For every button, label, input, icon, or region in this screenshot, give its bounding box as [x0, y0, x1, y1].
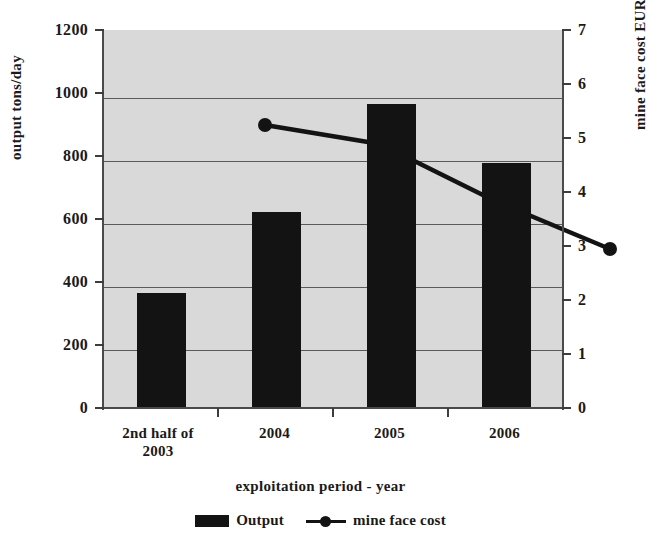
x-axis-category-label-1: 2004: [217, 424, 332, 442]
line-marker-1: [373, 137, 387, 151]
y-axis-right-label-2: 2: [578, 292, 608, 308]
y-axis-right-title: mine face cost EUR/ton: [632, 0, 649, 130]
x-axis-category-label-0-line-1: 2nd half of: [122, 425, 193, 441]
y-axis-left-tick-800: [95, 155, 104, 157]
y-axis-left-tick-200: [95, 344, 104, 346]
y-axis-right-label-7: 7: [578, 22, 608, 38]
y-axis-left-tick-400: [95, 281, 104, 283]
bar-2nd-half-of-2003: [137, 293, 186, 408]
x-axis-category-label-0: 2nd half of 2003: [100, 424, 216, 460]
y-axis-right-tick-3: [562, 245, 571, 247]
y-axis-right-label-5: 5: [578, 130, 608, 146]
plot-area: [103, 30, 563, 408]
x-axis-category-label-0-line-2: 2003: [143, 443, 174, 459]
x-axis-category-label-3: 2006: [447, 424, 562, 442]
x-axis-tick-2: [447, 408, 449, 417]
y-axis-right-label-1: 1: [578, 346, 608, 362]
y-axis-right-tick-1: [562, 353, 571, 355]
x-axis-category-label-2: 2005: [332, 424, 447, 442]
y-axis-left-label-200: 200: [28, 337, 88, 353]
x-axis-tick-0: [217, 408, 219, 417]
y-axis-left-label-400: 400: [28, 274, 88, 290]
y-axis-left-label-1200: 1200: [28, 22, 88, 38]
y-axis-right-label-4: 4: [578, 184, 608, 200]
y-axis-left-tick-600: [95, 218, 104, 220]
legend-item-output: Output: [195, 512, 284, 529]
y-axis-right-tick-0: [562, 407, 571, 409]
y-axis-right-label-3: 3: [578, 238, 608, 254]
y-axis-right-tick-4: [562, 191, 571, 193]
y-axis-left-tick-1000: [95, 92, 104, 94]
y-axis-left-tick-1200: [95, 29, 104, 31]
chart-legend: Output mine face cost: [0, 512, 641, 529]
legend-item-mine-face-cost-label: mine face cost: [353, 512, 446, 529]
line-marker-2: [488, 194, 502, 208]
legend-item-output-label: Output: [236, 512, 284, 529]
y-axis-right-tick-2: [562, 299, 571, 301]
y-axis-right-label-6: 6: [578, 76, 608, 92]
line-marker-0: [258, 118, 272, 132]
y-axis-right-tick-5: [562, 137, 571, 139]
x-axis-title: exploitation period - year: [0, 478, 641, 495]
y-axis-right-label-0: 0: [578, 400, 608, 416]
y-axis-right-tick-7: [562, 29, 571, 31]
legend-bar-swatch-icon: [195, 515, 229, 527]
legend-line-swatch-icon: [306, 515, 346, 527]
legend-item-mine-face-cost: mine face cost: [306, 512, 446, 529]
y-axis-left-title: output tons/day: [8, 0, 25, 160]
x-axis-tick-1: [332, 408, 334, 417]
y-axis-left-label-600: 600: [28, 211, 88, 227]
y-axis-right-tick-6: [562, 83, 571, 85]
y-axis-left-label-1000: 1000: [28, 85, 88, 101]
y-axis-left-tick-0: [95, 407, 104, 409]
y-axis-left-label-0: 0: [28, 400, 88, 416]
line-path: [265, 125, 610, 249]
y-axis-left-label-800: 800: [28, 148, 88, 164]
